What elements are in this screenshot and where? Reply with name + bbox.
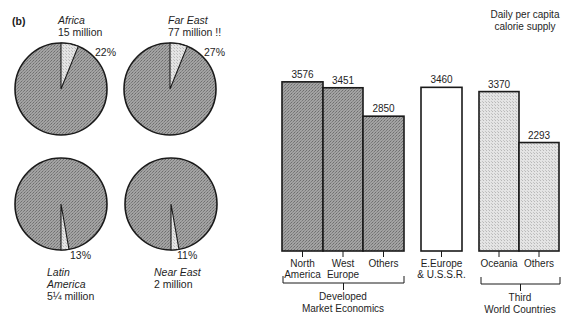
bar-oceania: 3370Oceania (479, 79, 519, 269)
bar-category-label: Others (368, 258, 398, 269)
population-label: 77 million !! (168, 26, 221, 38)
region-name: Near East (154, 266, 202, 278)
bar-category-label: North (290, 258, 314, 269)
group-bracket: DevelopedMarket Economics (283, 276, 404, 314)
region-name: Africa (57, 14, 85, 26)
region-name: Far East (168, 14, 209, 26)
chart-title: calorie supply (494, 21, 555, 32)
group-label: Market Economics (302, 303, 384, 314)
bar (323, 88, 363, 251)
region-name: America (46, 278, 86, 290)
group-label: World Countries (484, 304, 556, 315)
bar (519, 143, 559, 251)
chart-canvas: 22%Africa15 million27%Far East77 million… (0, 0, 571, 331)
bar-category-label: E.Europe (421, 258, 463, 269)
bar-category-label: West (332, 258, 355, 269)
bar (421, 87, 462, 251)
bar-category-label: Europe (327, 269, 360, 280)
bracket-line (481, 277, 560, 291)
pie-latin-america: 13%LatinAmerica5¼ million (15, 158, 107, 302)
population-label: 2 million (154, 278, 193, 290)
bar-value-label: 3460 (430, 74, 453, 85)
bar-north-america: 3576NorthAmerica (282, 69, 323, 280)
bar (282, 82, 323, 251)
group-label: Developed (319, 291, 367, 302)
pie-charts: 22%Africa15 million27%Far East77 million… (15, 14, 225, 302)
pie-africa: 22%Africa15 million (15, 14, 116, 135)
percent-label: 13% (70, 249, 91, 261)
bar-value-label: 3370 (488, 79, 511, 90)
percent-label: 27% (204, 46, 225, 58)
population-label: 5¼ million (47, 290, 94, 302)
bar-value-label: 2850 (372, 103, 395, 114)
bar-others: 2850Others (363, 103, 404, 269)
percent-label: 11% (177, 249, 197, 261)
region-name: Latin (47, 266, 70, 278)
bar-others: 2293Others (519, 130, 559, 269)
bar (363, 116, 404, 251)
group-label: Third (509, 292, 532, 303)
bar-value-label: 3576 (291, 69, 314, 80)
bar-west-europe: 3451WestEurope (323, 75, 363, 280)
population-label: 15 million (58, 26, 103, 38)
bar-chart: Daily per capitacalorie supply3576NorthA… (282, 9, 560, 315)
bar-category-label: Others (524, 258, 554, 269)
bar-value-label: 3451 (332, 75, 355, 86)
pie-near-east: 11%Near East2 million (125, 158, 217, 290)
chart-title: Daily per capita (491, 9, 560, 20)
pie-far-east: 27%Far East77 million !! (124, 14, 225, 135)
bar-category-label: & U.S.S.R. (417, 269, 465, 280)
group-bracket: ThirdWorld Countries (481, 277, 560, 315)
bar-category-label: America (284, 269, 321, 280)
bar-value-label: 2293 (528, 130, 551, 141)
bar-category-label: Oceania (480, 258, 518, 269)
percent-label: 22% (95, 46, 116, 58)
bar (479, 92, 519, 251)
bar-e-europe-u-s-s-r-: 3460E.Europe& U.S.S.R. (417, 74, 465, 280)
